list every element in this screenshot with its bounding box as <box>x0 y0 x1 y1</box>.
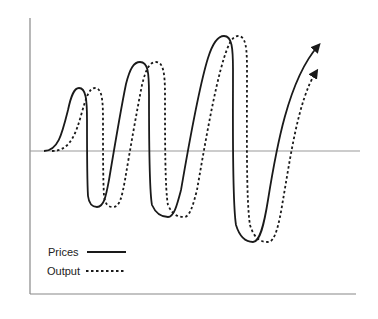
legend-prices-label: Prices <box>48 246 79 258</box>
price-output-cycle-chart: Prices Output <box>0 0 378 319</box>
legend-output-label: Output <box>47 265 80 277</box>
prices-curve <box>44 36 318 242</box>
legend: Prices Output <box>47 246 126 277</box>
output-curve <box>52 36 316 242</box>
